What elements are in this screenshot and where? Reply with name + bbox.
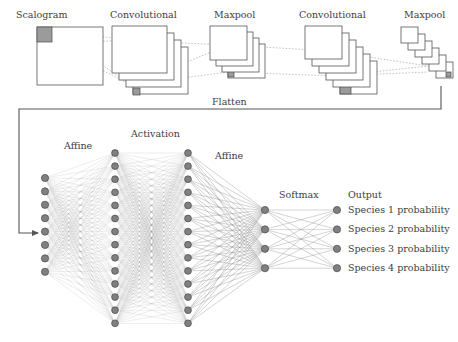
node-input-layer-0	[41, 174, 48, 181]
cnn-stage-label-scalogram: Scalogram	[16, 9, 68, 20]
output-label-species-4: Species 4 probability	[348, 262, 450, 273]
edge-input-layer-6-to-9	[45, 258, 115, 271]
node-output-layer-2	[333, 245, 340, 252]
node-output-layer-3	[333, 265, 340, 272]
node-input-layer-7	[41, 268, 48, 275]
node-hidden-1-12	[112, 307, 119, 314]
node-hidden-2-12	[185, 307, 192, 314]
node-input-layer-2	[41, 201, 48, 208]
node-hidden-2-5	[185, 215, 192, 222]
edge-input-layer-7-to-13	[45, 272, 115, 324]
edge-input-layer-2-to-3	[45, 192, 115, 205]
node-hidden-1-4	[112, 202, 119, 209]
edge-input-layer-6-to-0	[45, 153, 115, 258]
node-output-layer-0	[333, 206, 340, 213]
edge-input-layer-3-to-7	[45, 218, 115, 245]
edge-input-layer-6-to-7	[45, 245, 115, 259]
node-hidden-2-4	[185, 202, 192, 209]
edge-hidden-2-2-to-0	[188, 179, 265, 210]
edge-input-layer-7-to-10	[45, 272, 115, 284]
cnn-stage-conv-2	[305, 26, 377, 94]
plane-conv-2-0	[305, 26, 342, 59]
edge-input-layer-6-to-10	[45, 258, 115, 284]
node-hidden-1-9	[112, 268, 119, 275]
edge-hidden-2-0-to-1	[188, 153, 265, 229]
edge-input-layer-0-to-0	[45, 153, 115, 178]
cnn-stage-label-conv-2: Convolutional	[299, 9, 366, 20]
node-hidden-2-8	[185, 254, 192, 261]
patch-conv-1-b	[133, 88, 140, 95]
node-hidden-1-10	[112, 281, 119, 288]
node-input-layer-5	[41, 241, 48, 248]
output-label-species-2: Species 2 probability	[348, 223, 450, 234]
edge-hidden-2-4-to-3	[188, 205, 265, 268]
plane-maxpool-2-0	[401, 27, 418, 43]
node-hidden-1-11	[112, 294, 119, 301]
plane-conv-1-0	[112, 26, 167, 73]
node-hidden-2-13	[185, 320, 192, 327]
diagram-canvas	[0, 0, 458, 342]
output-label-species-3: Species 3 probability	[348, 243, 450, 254]
cnn-stage-maxpool-1	[210, 26, 265, 78]
node-hidden-1-5	[112, 215, 119, 222]
edge-input-layer-3-to-8	[45, 218, 115, 258]
edge-hidden-2-2-to-1	[188, 179, 265, 229]
node-hidden-2-3	[185, 189, 192, 196]
edge-input-layer-1-to-2	[45, 179, 115, 191]
node-softmax-layer-2	[261, 245, 268, 252]
mlp-label-affine-1: Affine	[64, 140, 92, 151]
edge-hidden-2-11-to-3	[188, 268, 265, 297]
cnn-stage-label-maxpool-2: Maxpool	[404, 9, 445, 20]
cnn-stage-label-maxpool-1: Maxpool	[214, 9, 255, 20]
cnn-stage-maxpool-2	[401, 27, 453, 78]
mlp-label-affine-2: Affine	[215, 150, 243, 161]
edge-input-layer-2-to-9	[45, 205, 115, 271]
node-hidden-1-8	[112, 254, 119, 261]
patch-maxpool-2-a	[446, 72, 451, 77]
node-hidden-2-10	[185, 281, 192, 288]
node-hidden-2-6	[185, 228, 192, 235]
node-hidden-1-7	[112, 241, 119, 248]
node-hidden-2-9	[185, 268, 192, 275]
architecture-diagram: ScalogramConvolutionalMaxpoolConvolution…	[0, 0, 458, 342]
output-label-species-1: Species 1 probability	[348, 204, 450, 215]
edge-input-layer-4-to-0	[45, 153, 115, 232]
node-hidden-2-11	[185, 294, 192, 301]
cnn-stage-conv-1	[112, 26, 188, 95]
edge-hidden-2-2-to-2	[188, 179, 265, 249]
node-softmax-layer-3	[261, 265, 268, 272]
mlp-label-activation: Activation	[131, 128, 180, 139]
edge-hidden-2-0-to-3	[188, 153, 265, 268]
node-softmax-layer-1	[261, 226, 268, 233]
node-hidden-2-0	[185, 150, 192, 157]
edge-hidden-2-4-to-0	[188, 205, 265, 210]
node-input-layer-6	[41, 255, 48, 262]
node-hidden-1-2	[112, 176, 119, 183]
node-input-layer-1	[41, 188, 48, 195]
flatten-label: Flatten	[212, 96, 247, 107]
node-hidden-2-1	[185, 163, 192, 170]
plane-maxpool-1-0	[210, 26, 247, 60]
edge-input-layer-3-to-10	[45, 218, 115, 284]
node-output-layer-1	[333, 226, 340, 233]
node-hidden-1-6	[112, 228, 119, 235]
node-hidden-2-7	[185, 241, 192, 248]
edge-input-layer-6-to-12	[45, 258, 115, 310]
node-hidden-1-1	[112, 163, 119, 170]
node-input-layer-4	[41, 228, 48, 235]
edge-hidden-2-12-to-2	[188, 249, 265, 310]
edge-hidden-2-12-to-3	[188, 268, 265, 310]
edge-input-layer-7-to-11	[45, 272, 115, 297]
edge-hidden-2-6-to-1	[188, 229, 265, 231]
cnn-stage-label-conv-1: Convolutional	[110, 9, 177, 20]
edge-hidden-2-12-to-1	[188, 229, 265, 310]
node-hidden-1-0	[112, 150, 119, 157]
patch-scalogram-a	[37, 27, 52, 42]
node-hidden-1-13	[112, 320, 119, 327]
edge-input-layer-2-to-5	[45, 205, 115, 219]
mlp-label-softmax: Softmax	[279, 189, 319, 200]
cnn-stage-scalogram	[37, 27, 103, 85]
node-hidden-2-2	[185, 176, 192, 183]
mlp-label-output: Output	[348, 189, 382, 200]
node-softmax-layer-0	[261, 206, 268, 213]
